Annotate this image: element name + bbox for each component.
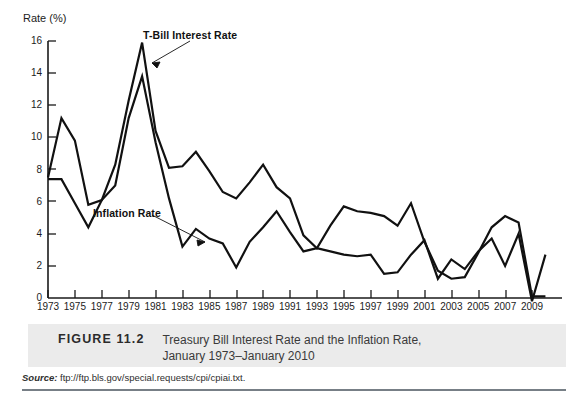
x-tick-label: 1981	[141, 301, 171, 312]
x-tick-label: 1993	[302, 301, 332, 312]
figure-number-label: FIGURE 11.2	[58, 332, 144, 346]
y-tick-label: 6	[24, 196, 42, 207]
source-url: ftp://ftp.bls.gov/special.requests/cpi/c…	[60, 372, 245, 383]
x-tick-label: 1997	[356, 301, 386, 312]
chart-axes	[48, 41, 562, 298]
source-label: Source:	[22, 372, 57, 383]
figure-caption-content: FIGURE 11.2 Treasury Bill Interest Rate …	[58, 332, 421, 364]
x-tick-label: 1973	[33, 301, 63, 312]
caption-line-1: Treasury Bill Interest Rate and the Infl…	[162, 332, 421, 348]
x-tick-label: 1999	[383, 301, 413, 312]
x-tick-label: 1989	[248, 301, 278, 312]
y-tick-label: 14	[24, 67, 42, 78]
x-axis-ticks	[48, 290, 532, 298]
x-tick-label: 1991	[275, 301, 305, 312]
figure-caption-band: FIGURE 11.2 Treasury Bill Interest Rate …	[28, 324, 566, 367]
x-tick-label: 2001	[409, 301, 439, 312]
x-tick-label: 1977	[87, 301, 117, 312]
x-tick-label: 2007	[490, 301, 520, 312]
figure-container: Rate (%) T-Bill Interest Rate Inflation …	[0, 0, 580, 399]
y-tick-label: 16	[24, 35, 42, 46]
x-tick-label: 1987	[221, 301, 251, 312]
y-axis-title: Rate (%)	[23, 12, 66, 24]
x-tick-label: 1995	[329, 301, 359, 312]
caption-line-2: January 1973–January 2010	[162, 348, 421, 364]
chart-series-lines	[48, 43, 545, 302]
annotation-inflation-label: Inflation Rate	[93, 207, 161, 219]
y-axis-ticks	[48, 41, 56, 266]
figure-source-text: Source: ftp://ftp.bls.gov/special.reques…	[22, 372, 566, 383]
x-tick-label: 1975	[60, 301, 90, 312]
x-tick-label: 1983	[167, 301, 197, 312]
y-tick-label: 4	[24, 228, 42, 239]
x-tick-label: 2003	[436, 301, 466, 312]
y-tick-label: 10	[24, 131, 42, 142]
figure-source-band: Source: ftp://ftp.bls.gov/special.reques…	[22, 372, 566, 383]
y-tick-label: 8	[24, 164, 42, 175]
x-tick-label: 2005	[463, 301, 493, 312]
x-tick-label: 1979	[114, 301, 144, 312]
x-tick-label: 1985	[194, 301, 224, 312]
chart-plot-region: Rate (%) T-Bill Interest Rate Inflation …	[0, 0, 580, 318]
annotation-tbill-label: T-Bill Interest Rate	[143, 29, 237, 41]
line-chart-svg	[0, 0, 580, 318]
y-tick-label: 2	[24, 260, 42, 271]
series-line-tbill	[48, 43, 545, 297]
figure-caption-text: Treasury Bill Interest Rate and the Infl…	[162, 332, 421, 364]
x-tick-label: 2009	[517, 301, 547, 312]
figure-bottom-rule	[22, 389, 566, 391]
y-tick-label: 12	[24, 99, 42, 110]
